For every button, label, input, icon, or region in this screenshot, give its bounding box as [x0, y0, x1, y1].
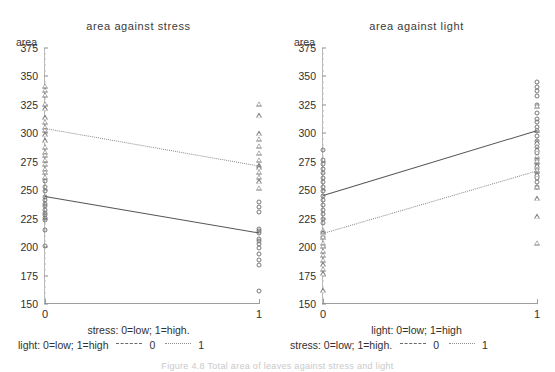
data-point-triangle: [42, 106, 48, 111]
y-tick-label: 350: [278, 70, 316, 82]
y-tick-label: 250: [0, 184, 38, 196]
y-minor-tick: [322, 116, 324, 117]
data-point-triangle: [534, 184, 540, 189]
data-point-triangle: [256, 137, 262, 142]
x-tick-mark: [45, 299, 46, 303]
legend-right: stress: 0=low; 1=high. 0 1: [290, 339, 490, 351]
y-tick-label: 350: [0, 70, 38, 82]
y-tick-mark: [44, 304, 48, 305]
y-minor-tick: [44, 224, 46, 225]
data-point-triangle: [534, 147, 540, 152]
x-tick-mark: [537, 299, 538, 303]
panel-area-against-stress: area against stress area stress: 0=low; …: [0, 0, 277, 372]
data-point-triangle: [534, 172, 540, 177]
y-minor-tick: [44, 281, 46, 282]
data-point-circle: [43, 217, 48, 222]
y-tick-label: 375: [278, 42, 316, 54]
y-minor-tick: [322, 99, 324, 100]
x-tick-mark: [259, 299, 260, 303]
data-point-circle: [535, 133, 540, 138]
y-minor-tick: [322, 281, 324, 282]
legend-title-right: stress: 0=low; 1=high.: [290, 339, 392, 351]
legend-label-0-right: 0: [431, 339, 441, 351]
panel-area-against-light: area against light area light: 0=low; 1=…: [278, 0, 555, 372]
y-tick-mark: [44, 76, 48, 77]
data-point-triangle: [256, 113, 262, 118]
y-tick-mark: [322, 304, 326, 305]
y-minor-tick: [44, 70, 46, 71]
y-tick-label: 200: [0, 241, 38, 253]
y-tick-label: 150: [278, 298, 316, 310]
data-point-triangle: [42, 174, 48, 179]
data-point-triangle: [42, 138, 48, 143]
y-tick-label: 250: [278, 184, 316, 196]
y-tick-label: 175: [278, 270, 316, 282]
y-tick-label: 225: [0, 213, 38, 225]
data-point-triangle: [534, 104, 540, 109]
data-point-triangle: [534, 196, 540, 201]
y-tick-label: 175: [0, 270, 38, 282]
y-tick-mark: [44, 48, 48, 49]
y-tick-mark: [322, 133, 326, 134]
data-point-triangle: [534, 240, 540, 245]
y-minor-tick: [44, 99, 46, 100]
y-tick-label: 200: [278, 241, 316, 253]
figure-caption: Figure 4.8 Total area of leaves against …: [0, 361, 555, 372]
y-tick-mark: [322, 48, 326, 49]
x-tick-label: 0: [42, 308, 48, 320]
data-point-triangle: [320, 288, 326, 293]
data-point-triangle: [256, 101, 262, 106]
y-minor-tick: [322, 139, 324, 140]
x-axis-caption-left: stress: 0=low; 1=high.: [0, 324, 277, 336]
data-point-circle: [535, 110, 540, 115]
data-point-circle: [43, 228, 48, 233]
legend-key-dashed-left: [116, 343, 142, 345]
legend-title-left: light: 0=low; 1=high: [18, 339, 108, 351]
y-tick-label: 275: [278, 156, 316, 168]
y-minor-tick: [322, 87, 324, 88]
data-point-triangle: [256, 179, 262, 184]
y-minor-tick: [44, 53, 46, 54]
y-minor-tick: [44, 59, 46, 60]
data-point-circle: [257, 263, 262, 268]
plot-area-right: [322, 48, 537, 304]
plot-area-left: [44, 48, 259, 304]
data-point-circle: [257, 251, 262, 256]
y-minor-tick: [322, 53, 324, 54]
y-minor-tick: [44, 241, 46, 242]
y-minor-tick: [322, 82, 324, 83]
data-point-triangle: [256, 185, 262, 190]
data-point-triangle: [42, 92, 48, 97]
data-point-circle: [43, 243, 48, 248]
y-minor-tick: [44, 235, 46, 236]
legend-key-dashed-right: [400, 343, 426, 345]
data-point-circle: [257, 246, 262, 251]
y-minor-tick: [44, 286, 46, 287]
y-tick-mark: [322, 76, 326, 77]
y-tick-label: 300: [278, 127, 316, 139]
y-minor-tick: [44, 292, 46, 293]
y-tick-label: 225: [278, 213, 316, 225]
y-tick-label: 300: [0, 127, 38, 139]
data-point-triangle: [256, 157, 262, 162]
y-tick-mark: [44, 275, 48, 276]
x-tick-label: 0: [320, 308, 326, 320]
y-minor-tick: [322, 144, 324, 145]
legend-label-1-left: 1: [196, 339, 206, 351]
data-point-circle: [257, 257, 262, 262]
data-point-triangle: [256, 150, 262, 155]
legend-key-dotted-left: [165, 343, 191, 345]
y-minor-tick: [44, 264, 46, 265]
data-point-circle: [43, 179, 48, 184]
legend-label-1-right: 1: [480, 339, 490, 351]
y-minor-tick: [322, 59, 324, 60]
legend-label-0-left: 0: [147, 339, 157, 351]
y-minor-tick: [44, 269, 46, 270]
y-minor-tick: [322, 121, 324, 122]
x-tick-label: 1: [534, 308, 540, 320]
y-minor-tick: [322, 65, 324, 66]
y-tick-label: 375: [0, 42, 38, 54]
data-point-triangle: [320, 271, 326, 276]
legend-key-dotted-right: [449, 343, 475, 345]
data-point-circle: [535, 93, 540, 98]
